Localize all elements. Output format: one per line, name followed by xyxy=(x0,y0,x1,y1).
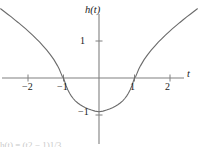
y-tick-label-neg1: −1 xyxy=(78,107,89,117)
x-axis-label: t xyxy=(187,69,190,80)
x-tick-label-pos2: 2 xyxy=(165,82,170,92)
x-tick-label-neg2: −2 xyxy=(22,82,33,92)
curve-left-branch xyxy=(1,9,64,78)
x-tick-label-neg1: −1 xyxy=(57,82,68,92)
y-tick-label-pos1: 1 xyxy=(80,36,85,46)
figure-caption-text: h(t) = (t2 − 1)1/3 xyxy=(0,140,61,147)
y-axis-label: h(t) xyxy=(85,5,100,16)
figure-caption-clipped: h(t) = (t2 − 1)1/3 xyxy=(0,140,199,147)
figure-container: h(t) t −2 −1 1 2 1 −1 h(t) = (t2 − 1)1/3 xyxy=(0,0,199,147)
graph-canvas xyxy=(0,0,199,147)
x-tick-label-pos1: 1 xyxy=(130,82,135,92)
